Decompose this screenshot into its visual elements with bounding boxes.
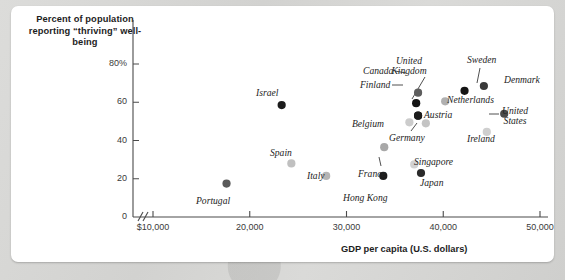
x-tick-label: 30,000 — [312, 222, 382, 232]
point-label: Austria — [424, 110, 452, 121]
x-tick-label: 50,000 — [505, 222, 554, 232]
point-label: Singapore — [414, 157, 453, 168]
data-point — [412, 99, 420, 107]
point-label: UnitedStates — [502, 106, 528, 126]
point-label: UnitedKingdom — [391, 56, 426, 76]
data-point — [414, 112, 422, 120]
x-tick-label: $10,000 — [118, 222, 188, 232]
data-point — [287, 159, 295, 167]
point-label: Netherlands — [447, 95, 494, 106]
point-label: Finland — [360, 80, 390, 91]
point-label: Portugal — [196, 196, 230, 207]
point-label: Hong Kong — [343, 193, 388, 204]
scatter-plot: Percent of population reporting “thrivin… — [11, 6, 554, 262]
data-point — [380, 143, 388, 151]
data-point — [414, 89, 422, 97]
y-tick-label: 40 — [77, 135, 127, 145]
y-tick-label: 0 — [77, 211, 127, 221]
point-label: Denmark — [504, 75, 540, 86]
point-label: Israel — [256, 88, 278, 99]
data-point — [417, 169, 425, 177]
point-label: Canada — [363, 66, 393, 77]
data-point — [278, 101, 286, 109]
point-label: Germany — [389, 133, 425, 144]
point-label: France — [358, 169, 386, 180]
y-tick-label: 80% — [77, 58, 127, 68]
leader-line — [477, 68, 480, 83]
point-label: Sweden — [467, 55, 496, 66]
data-point — [405, 118, 413, 126]
point-label: Ireland — [467, 134, 495, 145]
x-tick-label: 40,000 — [408, 222, 478, 232]
y-tick-label: 20 — [77, 173, 127, 183]
data-point — [222, 179, 230, 187]
leader-line — [379, 157, 381, 166]
x-axis-title: GDP per capita (U.S. dollars) — [341, 244, 467, 254]
chart-panel: Percent of population reporting “thrivin… — [11, 6, 554, 262]
point-label: Italy — [307, 171, 325, 182]
data-point — [480, 82, 488, 90]
y-tick-label: 60 — [77, 96, 127, 106]
point-label: Japan — [420, 178, 443, 189]
x-tick-label: 20,000 — [215, 222, 285, 232]
point-label: Spain — [270, 148, 292, 159]
point-label: Belgium — [352, 119, 384, 130]
